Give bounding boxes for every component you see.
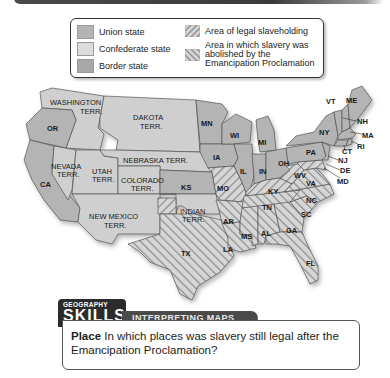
label-utah-terr: TERR. [92, 175, 115, 184]
legend-item-legal-slaveholding: Area of legal slaveholding [185, 25, 308, 37]
label-ny: NY [319, 128, 329, 137]
label-tn: TN [262, 203, 272, 212]
label-new-mexico: NEW MEXICO [89, 212, 138, 221]
label-sc: SC [301, 210, 312, 219]
label-de: DE [340, 166, 350, 175]
legend-item-union: Union state [77, 25, 145, 39]
label-nevada-terr: TERR. [57, 170, 80, 179]
confederate-swatch-icon [77, 42, 94, 56]
label-ks: KS [181, 183, 191, 192]
label-md: MD [337, 177, 349, 186]
chapter-header-bar [14, 0, 384, 4]
label-nh: NH [357, 117, 368, 126]
label-ri: RI [357, 142, 365, 151]
label-oh: OH [278, 159, 289, 168]
label-ma: MA [362, 131, 374, 140]
label-ct: CT [342, 147, 352, 156]
label-ga: GA [286, 226, 298, 235]
question-lead: Place [71, 330, 101, 342]
legend-label: Union state [99, 28, 145, 37]
state-fl [266, 232, 318, 284]
back-hatch-swatch-icon [185, 49, 200, 61]
label-mn: MN [201, 119, 213, 128]
legend-item-border: Border state [77, 59, 148, 73]
label-dakota-terr: TERR. [140, 122, 163, 131]
label-ar: AR [223, 217, 234, 226]
label-il: IL [240, 167, 247, 176]
label-me: ME [346, 96, 357, 105]
label-pa: PA [306, 148, 316, 157]
map-legend: Union state Confederate state Border sta… [70, 18, 324, 78]
label-or: OR [47, 124, 59, 133]
border-swatch-icon [77, 59, 94, 73]
state-ny [286, 112, 338, 146]
label-ky: KY [268, 187, 278, 196]
legend-label: Confederate state [99, 45, 171, 54]
label-new-mexico-terr: TERR. [104, 221, 127, 230]
label-indian-terr: TERR. [182, 215, 205, 224]
label-washington: WASHINGTON [50, 98, 101, 107]
legend-line: Emancipation Proclamation [205, 59, 315, 68]
union-swatch-icon [77, 25, 94, 39]
label-vt: VT [326, 97, 336, 106]
question-text: Place In which places was slavery still … [71, 329, 351, 357]
label-in: IN [259, 167, 267, 176]
label-tx: TX [181, 249, 191, 258]
question-box: Place In which places was slavery still … [62, 320, 360, 370]
label-dakota: DAKOTA [133, 113, 163, 122]
label-ca: CA [40, 180, 51, 189]
label-wi: WI [230, 131, 239, 140]
indian-territory-slaveholding [158, 198, 176, 214]
label-ms: MS [241, 232, 252, 241]
label-al: AL [261, 229, 271, 238]
label-wv: WV [294, 171, 306, 180]
label-washington-terr: TERR. [80, 107, 103, 116]
legend-label: Area of legal slaveholding [205, 27, 308, 36]
label-mi: MI [258, 138, 266, 147]
label-fl: FL [306, 259, 316, 268]
question-body: In which places was slavery still legal … [71, 330, 339, 356]
label-va: VA [306, 179, 316, 188]
legend-item-abolished: Area in which slavery was abolished by t… [185, 41, 315, 68]
legend-label-multiline: Area in which slavery was abolished by t… [205, 41, 315, 68]
civil-war-us-map: WASHINGTON TERR. DAKOTA TERR. OR NEVADA … [0, 80, 390, 305]
label-la: LA [223, 245, 234, 254]
label-colorado-terr: TERR. [131, 184, 154, 193]
label-ia: IA [213, 153, 221, 162]
label-nebraska: NEBRASKA TERR. [123, 156, 188, 165]
legend-label: Border state [99, 62, 148, 71]
label-mo: MO [217, 184, 229, 193]
forward-hatch-swatch-icon [185, 25, 200, 37]
legend-item-confederate: Confederate state [77, 42, 171, 56]
label-nj: NJ [338, 156, 348, 165]
label-nc: NC [306, 196, 317, 205]
